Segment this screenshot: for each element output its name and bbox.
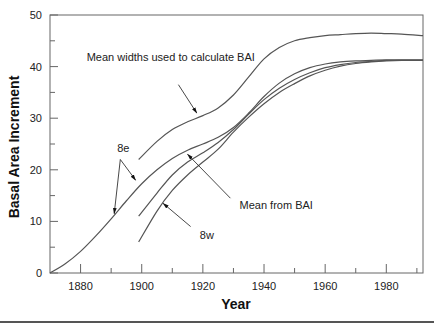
x-axis: 188019001920194019601980 bbox=[68, 264, 417, 292]
annotation-arrow bbox=[178, 85, 196, 113]
annotation-label: Mean widths used to calculate BAI bbox=[87, 51, 255, 63]
y-tick-label: 30 bbox=[30, 112, 42, 124]
series-mean-from-bai bbox=[139, 60, 423, 216]
data-series bbox=[50, 33, 423, 273]
y-tick-label: 50 bbox=[30, 9, 42, 21]
y-tick-label: 10 bbox=[30, 215, 42, 227]
x-tick-label: 1900 bbox=[129, 280, 153, 292]
y-axis-title: Basal Area Increment bbox=[6, 75, 22, 218]
x-axis-title: Year bbox=[221, 296, 251, 312]
annotations: Mean widths used to calculate BAI8eMean … bbox=[87, 51, 313, 241]
y-tick-label: 20 bbox=[30, 164, 42, 176]
y-tick-label: 40 bbox=[30, 61, 42, 73]
y-tick-label: 0 bbox=[36, 267, 42, 279]
annotation-label: 8w bbox=[200, 229, 214, 241]
basal-area-chart: 01020304050 188019001920194019601980 Mea… bbox=[0, 0, 434, 328]
annotation-arrow bbox=[188, 154, 231, 198]
y-axis: 01020304050 bbox=[30, 9, 58, 279]
x-tick-label: 1980 bbox=[374, 280, 398, 292]
bottom-divider bbox=[0, 321, 434, 323]
annotation-label: Mean from BAI bbox=[240, 199, 313, 211]
annotation-arrow bbox=[120, 159, 135, 180]
x-tick-label: 1880 bbox=[68, 280, 92, 292]
x-tick-label: 1940 bbox=[252, 280, 276, 292]
annotation-label: 8e bbox=[117, 142, 129, 154]
x-tick-label: 1960 bbox=[313, 280, 337, 292]
annotation-arrow bbox=[114, 159, 120, 213]
annotation-arrow bbox=[163, 203, 191, 226]
x-tick-label: 1920 bbox=[191, 280, 215, 292]
